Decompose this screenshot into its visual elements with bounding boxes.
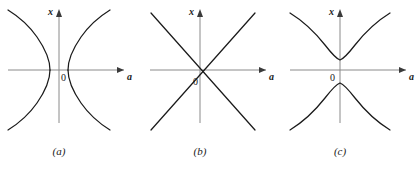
figure-background — [0, 0, 417, 169]
panel-b-caption: (b) — [194, 145, 207, 158]
panel-b-horizontal-axis-label: a — [269, 71, 274, 82]
panel-a-origin-label: 0 — [61, 72, 66, 83]
panel-c-horizontal-axis-label: a — [409, 71, 414, 82]
panel-a-horizontal-axis-label: a — [127, 71, 132, 82]
panel-c-origin-label: 0 — [330, 72, 335, 83]
panel-a-vertical-axis-label: x — [47, 6, 53, 17]
panel-a-caption: (a) — [53, 145, 66, 158]
panel-c-caption: (c) — [334, 145, 347, 158]
panel-c-vertical-axis-label: x — [328, 6, 334, 17]
panel-b-vertical-axis-label: x — [188, 6, 194, 17]
hyperbola-bifurcation-figure: a x 0 (a) a x 0 (b) — [0, 0, 417, 169]
